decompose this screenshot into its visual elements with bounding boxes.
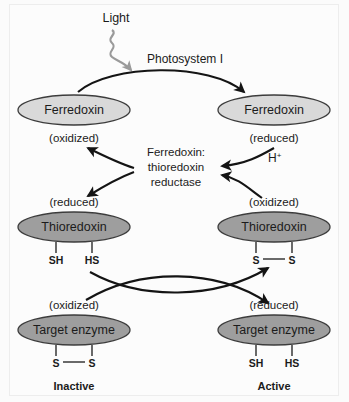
node-ferredoxin-oxidized: Ferredoxin (oxidized) bbox=[18, 95, 130, 144]
proton-superscript: + bbox=[277, 151, 282, 160]
target-enzyme-inactive-state: (oxidized) bbox=[49, 299, 99, 311]
thioredoxin-oxidized-bond-left: S bbox=[252, 254, 259, 266]
node-thioredoxin-oxidized: (oxidized) Thioredoxin S S bbox=[218, 196, 330, 266]
arrow-reductase-to-thioredoxin-reduced bbox=[88, 172, 134, 196]
arrow-thioredoxin-oxidized-to-reductase bbox=[222, 175, 262, 198]
node-thioredoxin-reduced: (reduced) Thioredoxin SH HS bbox=[18, 196, 130, 266]
reductase-label-line1: Ferredoxin: bbox=[147, 146, 205, 158]
target-enzyme-active-bond-right: HS bbox=[285, 357, 300, 369]
light-label: Light bbox=[102, 11, 130, 25]
thioredoxin-oxidized-state: (oxidized) bbox=[249, 196, 299, 208]
reductase-label-line3: reductase bbox=[151, 176, 202, 188]
ferredoxin-oxidized-name: Ferredoxin bbox=[44, 103, 104, 117]
target-enzyme-active-bond-left: SH bbox=[249, 357, 264, 369]
node-ferredoxin-reduced: Ferredoxin (reduced) bbox=[218, 95, 330, 144]
ferredoxin-oxidized-state: (oxidized) bbox=[49, 132, 99, 144]
photosystem-label: Photosystem I bbox=[147, 52, 223, 66]
target-enzyme-active-name: Target enzyme bbox=[233, 323, 315, 337]
ferredoxin-reduced-state: (reduced) bbox=[249, 132, 298, 144]
proton-label: H+ bbox=[268, 151, 282, 166]
thioredoxin-oxidized-bond-right: S bbox=[288, 254, 295, 266]
target-enzyme-inactive-status: Inactive bbox=[54, 380, 95, 392]
ferredoxin-reduced-name: Ferredoxin bbox=[244, 103, 304, 117]
arrow-reductase-to-ferredoxin-oxidized bbox=[88, 148, 134, 168]
node-target-enzyme-active: (reduced) Target enzyme SH HS Active bbox=[218, 299, 330, 392]
thioredoxin-reduced-bond-right: HS bbox=[85, 254, 100, 266]
diagram-figure: Light Photosystem I Ferredoxin (oxidized… bbox=[0, 0, 349, 402]
target-enzyme-inactive-bond-right: S bbox=[88, 357, 95, 369]
reductase-label-line2: thioredoxin bbox=[148, 161, 204, 173]
target-enzyme-inactive-name: Target enzyme bbox=[33, 323, 115, 337]
thioredoxin-reduced-state: (reduced) bbox=[49, 196, 98, 208]
thioredoxin-reduced-bond-left: SH bbox=[49, 254, 64, 266]
diagram-canvas: Light Photosystem I Ferredoxin (oxidized… bbox=[0, 0, 349, 402]
target-enzyme-active-state: (reduced) bbox=[249, 299, 298, 311]
photosystem-arrow bbox=[78, 70, 244, 92]
thioredoxin-oxidized-name: Thioredoxin bbox=[241, 220, 306, 234]
proton-letter: H bbox=[268, 151, 277, 165]
target-enzyme-inactive-bond-left: S bbox=[52, 357, 59, 369]
target-enzyme-active-status: Active bbox=[257, 380, 290, 392]
arrow-ferredoxin-reduced-to-reductase bbox=[222, 148, 274, 166]
light-squiggle-arrow bbox=[110, 30, 131, 70]
node-target-enzyme-inactive: (oxidized) Target enzyme S S Inactive bbox=[18, 299, 130, 392]
ferredoxin-thioredoxin-reductase-label: Ferredoxin: thioredoxin reductase bbox=[147, 146, 205, 188]
thioredoxin-reduced-name: Thioredoxin bbox=[41, 220, 106, 234]
